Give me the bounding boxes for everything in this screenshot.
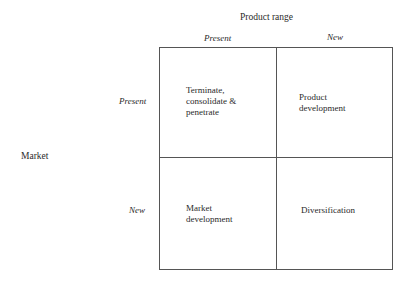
matrix-horizontal-divider: [159, 157, 393, 158]
row-label-new: New: [129, 205, 145, 215]
cell-present-present: Terminate, consolidate & penetrate: [186, 85, 236, 118]
column-label-present: Present: [204, 33, 231, 43]
y-axis-title: Market: [21, 151, 48, 161]
matrix-vertical-divider: [276, 47, 277, 270]
row-label-present: Present: [119, 96, 146, 106]
cell-new-present: Market development: [186, 203, 233, 225]
x-axis-title: Product range: [240, 12, 293, 22]
cell-present-new: Product development: [299, 92, 346, 114]
cell-new-new: Diversification: [301, 205, 355, 216]
column-label-new: New: [327, 32, 343, 42]
